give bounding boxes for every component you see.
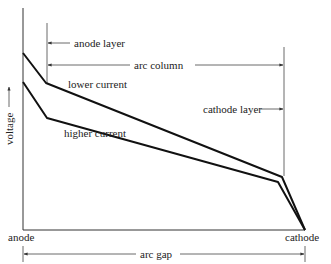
lower-current-label: lower current bbox=[68, 78, 127, 90]
anode-layer-label: anode layer bbox=[74, 37, 125, 49]
voltage-axis-label: voltage bbox=[3, 113, 15, 145]
curve-higher-current bbox=[23, 82, 305, 230]
cathode-layer-label: cathode layer bbox=[203, 103, 262, 115]
anode-label: anode bbox=[8, 231, 34, 243]
arc-gap-label: arc gap bbox=[140, 248, 173, 260]
cathode-label: cathode bbox=[285, 231, 319, 243]
arc-voltage-diagram: anode layer arc column cathode layer low… bbox=[0, 0, 331, 264]
arc-column-label: arc column bbox=[134, 59, 184, 71]
higher-current-label: higher current bbox=[64, 127, 126, 139]
curve-lower-current bbox=[23, 53, 305, 230]
